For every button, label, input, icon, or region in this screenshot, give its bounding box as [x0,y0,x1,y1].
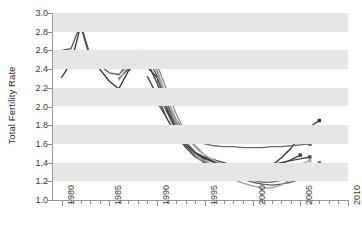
x-axis-tick-label: 1985 [113,185,123,205]
plot-area [52,13,348,200]
y-axis-tick-mark [47,69,52,70]
x-axis-tick-label: 2005 [304,185,314,205]
x-axis-minor-tick [233,201,234,204]
series-endpoint-marker [308,155,311,158]
x-axis-minor-tick [243,201,244,204]
y-axis-title: Total Fertility Rate [0,0,22,210]
series-endpoint-marker [299,153,302,156]
x-axis-major-tick [253,201,254,206]
background-band [52,125,348,144]
background-band [52,163,348,182]
x-axis-minor-tick [272,201,273,204]
x-axis-minor-tick [329,201,330,204]
y-axis-tick-mark [47,181,52,182]
x-axis-tick-label: 2010 [352,185,362,205]
x-axis-minor-tick [224,201,225,204]
x-axis-tick-label: 1990 [161,185,171,205]
background-band [52,50,348,69]
x-axis-major-tick [348,201,349,206]
x-axis-minor-tick [81,201,82,204]
x-axis-minor-tick [319,201,320,204]
y-axis-tick-mark [47,125,52,126]
x-axis-minor-tick [338,201,339,204]
x-axis-major-tick [157,201,158,206]
data-series-line [62,24,310,138]
y-axis-tick-mark [47,50,52,51]
y-axis-tick-mark [47,200,52,201]
x-axis-minor-tick [100,201,101,204]
data-series-line [157,64,310,177]
y-axis-tick-mark [47,144,52,145]
y-axis-tick-mark [47,163,52,164]
y-axis-tick-mark [47,13,52,14]
x-axis-tick-label: 2000 [257,185,267,205]
x-axis-minor-tick [291,201,292,204]
x-axis-minor-tick [186,201,187,204]
y-axis-tick-mark [47,88,52,89]
background-band [52,13,348,32]
series-endpoint-marker [318,119,321,122]
x-axis-tick-label: 1995 [209,185,219,205]
x-axis-minor-tick [176,201,177,204]
x-axis-minor-tick [138,201,139,204]
x-axis-minor-tick [281,201,282,204]
x-axis-major-tick [109,201,110,206]
y-axis-tick-mark [47,32,52,33]
x-axis-major-tick [300,201,301,206]
x-axis-major-tick [62,201,63,206]
x-axis-minor-tick [147,201,148,204]
x-axis-tick-label: 1980 [66,185,76,205]
x-axis-minor-tick [195,201,196,204]
y-axis-tick-mark [47,107,52,108]
background-band [52,88,348,107]
x-axis-minor-tick [128,201,129,204]
y-axis-title-text: Total Fertility Rate [6,66,17,144]
x-axis-minor-tick [90,201,91,204]
x-axis-major-tick [205,201,206,206]
